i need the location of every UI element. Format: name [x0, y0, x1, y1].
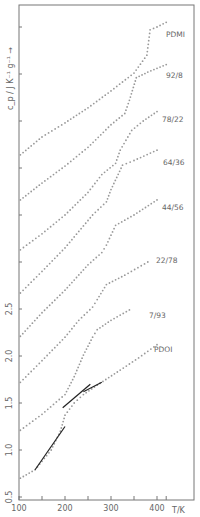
data-point: [124, 113, 126, 115]
data-point: [58, 399, 60, 401]
data-point: [29, 325, 31, 327]
data-point: [67, 212, 69, 214]
data-point: [115, 224, 117, 226]
data-point: [53, 224, 55, 226]
data-point: [94, 333, 96, 335]
data-point: [64, 165, 66, 167]
data-point: [99, 177, 101, 179]
data-point: [106, 201, 108, 203]
data-point: [35, 237, 37, 239]
data-point: [44, 134, 46, 136]
data-point: [52, 446, 54, 448]
data-point: [127, 272, 129, 274]
data-point: [135, 69, 137, 71]
data-point: [156, 67, 158, 69]
data-point: [64, 247, 66, 249]
data-point: [50, 176, 52, 178]
data-point: [97, 209, 99, 211]
data-point: [89, 189, 91, 191]
data-point: [71, 328, 73, 330]
data-point: [99, 98, 101, 100]
data-point: [33, 368, 35, 370]
data-point: [153, 113, 155, 115]
data-point: [137, 267, 139, 269]
data-point: [142, 208, 144, 210]
data-point: [131, 130, 133, 132]
data-point: [76, 322, 78, 324]
data-point: [119, 369, 121, 371]
data-point: [100, 134, 102, 136]
data-point: [129, 96, 131, 98]
data-point: [81, 357, 83, 359]
data-point: [121, 115, 123, 117]
data-point: [76, 370, 78, 372]
data-point: [100, 293, 102, 295]
data-point: [104, 287, 106, 289]
data-point: [83, 269, 85, 271]
data-point: [19, 429, 21, 431]
data-point: [121, 221, 123, 223]
data-point: [153, 151, 155, 153]
data-point: [125, 109, 127, 111]
data-point: [36, 276, 38, 278]
data-point: [19, 477, 21, 479]
data-point: [121, 276, 123, 278]
data-point: [124, 274, 126, 276]
data-point: [87, 264, 89, 266]
data-point: [122, 367, 124, 369]
data-point: [96, 299, 98, 301]
data-point: [61, 124, 63, 126]
data-point: [32, 240, 34, 242]
data-point: [96, 329, 98, 331]
data-point: [159, 25, 161, 27]
data-point: [132, 361, 134, 363]
data-point: [119, 170, 121, 172]
data-point: [41, 136, 43, 138]
data-point: [87, 220, 89, 222]
y-tick-label: 1.5: [5, 397, 14, 410]
data-point: [54, 347, 56, 349]
data-point: [116, 86, 118, 88]
data-point: [94, 302, 96, 304]
data-point: [41, 182, 43, 184]
data-point: [95, 257, 97, 259]
data-point: [112, 186, 114, 188]
data-point: [61, 167, 63, 169]
data-point: [122, 312, 124, 314]
data-point: [64, 394, 66, 396]
data-point: [108, 377, 110, 379]
data-point: [113, 228, 115, 230]
data-point: [56, 255, 58, 257]
data-point: [66, 391, 68, 393]
data-point: [32, 420, 34, 422]
data-point: [116, 316, 118, 318]
data-point: [38, 416, 40, 418]
data-point: [103, 204, 105, 206]
data-point: [59, 252, 61, 254]
data-point: [22, 379, 24, 381]
data-point: [95, 139, 97, 141]
data-point: [84, 351, 86, 353]
data-point: [25, 149, 27, 151]
data-point: [145, 118, 147, 120]
data-point: [113, 183, 115, 185]
data-point: [102, 325, 104, 327]
data-point: [55, 401, 57, 403]
data-point: [41, 233, 43, 235]
data-point: [156, 26, 158, 28]
data-point: [55, 221, 57, 223]
data-point: [82, 197, 84, 199]
data-point: [114, 180, 116, 182]
series-pdmi: [19, 21, 167, 155]
data-point: [90, 105, 92, 107]
curve-label: 22/78: [156, 256, 178, 265]
curve-label: PDOI: [154, 345, 172, 354]
data-point: [46, 355, 48, 357]
data-point: [28, 373, 30, 375]
data-point: [50, 226, 52, 228]
data-point: [103, 248, 105, 250]
data-point: [130, 74, 132, 76]
data-point: [116, 371, 118, 373]
data-point: [79, 396, 81, 398]
data-point: [96, 180, 98, 182]
